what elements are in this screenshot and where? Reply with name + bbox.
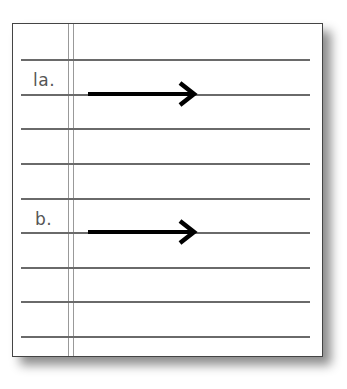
ruled-line [21,267,310,269]
ruled-line [21,198,310,200]
ruled-line [21,336,310,338]
margin-line-left [68,24,69,356]
right-arrow-icon [88,81,200,107]
ruled-line [21,163,310,165]
lined-paper: la. b. [12,23,323,357]
ruled-line [21,128,310,130]
item-label-b: b. [35,209,52,229]
right-arrow-icon [88,219,200,245]
ruled-line [21,59,310,61]
margin-line-right [73,24,74,356]
item-label-1a: la. [33,70,55,90]
ruled-line [21,301,310,303]
